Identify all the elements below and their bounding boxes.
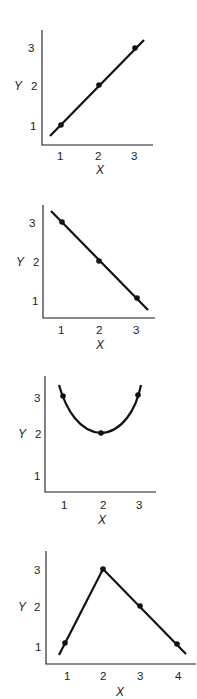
chart-2-point	[96, 258, 102, 264]
chart-4-ylabel: Y	[18, 600, 27, 614]
chart-2-ytick-2: 2	[33, 256, 39, 268]
chart-4-ytick-1: 1	[35, 641, 41, 653]
chart-4-xlabel: X	[115, 685, 125, 699]
chart-2-ytick-3: 3	[29, 217, 35, 229]
chart-4-line	[59, 569, 186, 655]
chart-2-decreasing: 3 2 1 Y 1 2 3 X	[16, 205, 155, 352]
chart-2-xtick-3: 3	[133, 324, 139, 336]
chart-1-ytick-2: 2	[31, 80, 37, 92]
chart-3-xlabel: X	[97, 513, 107, 527]
figure-panel: 3 2 1 Y 1 2 3 X 3 2 1 Y 1 2 3 X 3 2 1 Y …	[0, 0, 197, 699]
chart-1-xtick-3: 3	[131, 150, 137, 162]
chart-1-xtick-2: 2	[95, 150, 101, 162]
chart-1-ylabel: Y	[14, 79, 23, 93]
chart-3-point	[60, 393, 66, 399]
chart-1-xlabel: X	[95, 163, 105, 177]
chart-1-xtick-1: 1	[57, 150, 63, 162]
chart-3-point	[135, 392, 141, 398]
chart-4-inverted-v: 3 2 1 Y 1 2 3 4 X	[18, 551, 196, 699]
chart-3-point	[98, 430, 104, 436]
chart-3-ytick-2: 2	[35, 428, 41, 440]
chart-4-xtick-3: 3	[137, 670, 143, 682]
chart-2-point	[134, 295, 140, 301]
chart-1-ytick-3: 3	[28, 42, 34, 54]
chart-4-axes	[46, 551, 196, 664]
chart-1-ytick-1: 1	[30, 120, 36, 132]
chart-4-point	[137, 603, 143, 609]
chart-1-line	[50, 40, 144, 136]
chart-4-ytick-3: 3	[34, 564, 40, 576]
chart-2-ytick-1: 1	[32, 295, 38, 307]
chart-1-increasing: 3 2 1 Y 1 2 3 X	[14, 30, 153, 177]
chart-3-ytick-3: 3	[34, 392, 40, 404]
chart-2-xtick-2: 2	[96, 324, 102, 336]
chart-3-u-curve: 3 2 1 Y 1 2 3 X	[18, 376, 156, 527]
chart-4-xtick-4: 4	[175, 670, 182, 682]
chart-3-xtick-3: 3	[136, 499, 142, 511]
chart-4-xtick-2: 2	[100, 670, 106, 682]
chart-3-xtick-1: 1	[61, 499, 67, 511]
chart-1-point	[132, 45, 138, 51]
chart-2-xtick-1: 1	[58, 324, 64, 336]
chart-1-point	[58, 122, 64, 128]
chart-4-ytick-2: 2	[34, 601, 40, 613]
chart-3-ytick-1: 1	[34, 470, 40, 482]
chart-2-point	[59, 219, 65, 225]
chart-4-point	[174, 641, 180, 647]
chart-2-ylabel: Y	[16, 255, 25, 269]
chart-3-ylabel: Y	[18, 427, 27, 441]
chart-3-xtick-2: 2	[100, 499, 106, 511]
chart-4-point	[100, 566, 106, 572]
chart-2-xlabel: X	[95, 338, 105, 352]
chart-4-point	[62, 640, 68, 646]
chart-1-point	[96, 82, 102, 88]
chart-4-xtick-1: 1	[64, 670, 70, 682]
chart-3-curve	[59, 385, 141, 433]
